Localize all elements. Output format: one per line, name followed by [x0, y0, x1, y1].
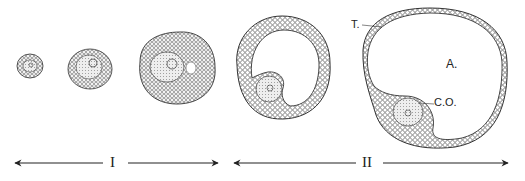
- cumulus-oophorus-label: C.O.: [434, 96, 457, 108]
- follicle-1: [17, 54, 43, 78]
- follicle-3: [140, 32, 215, 104]
- stage-ii-label: II: [359, 155, 375, 170]
- follicle-illustration: [0, 0, 525, 181]
- theca-label: T.: [351, 18, 360, 30]
- stage-i-label: I: [107, 155, 118, 170]
- follicle-5: [362, 8, 507, 148]
- follicle-4: [237, 16, 330, 119]
- antrum-label: A.: [446, 57, 457, 71]
- follicle-2: [68, 49, 112, 89]
